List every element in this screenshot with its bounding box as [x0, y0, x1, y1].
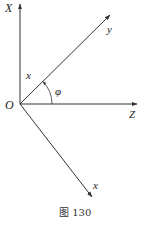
coordinate-diagram	[0, 0, 148, 226]
y-axis-line	[20, 15, 110, 104]
segment-label-x: x	[26, 70, 31, 81]
angle-label-phi: φ	[55, 86, 61, 97]
axis-label-y: y	[107, 24, 112, 35]
x-lower-axis-line	[20, 104, 92, 197]
axis-label-Z: Z	[129, 109, 135, 120]
angle-phi-arc	[43, 82, 52, 105]
figure-caption: 图 130	[59, 208, 91, 218]
axis-label-X: X	[5, 2, 12, 14]
origin-label: O	[5, 99, 14, 111]
axis-label-x-lower: x	[93, 180, 98, 191]
